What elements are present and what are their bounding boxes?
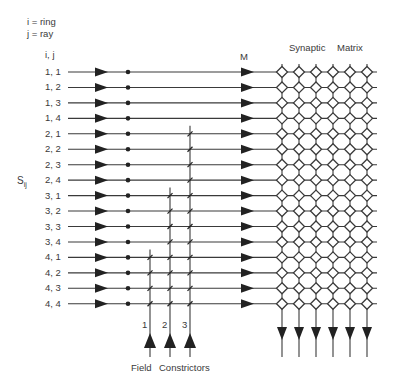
synapse-diamond-icon	[277, 298, 288, 309]
node-dot-icon	[126, 271, 131, 276]
synapse-diamond-icon	[294, 144, 305, 155]
synapse-diamond-icon	[294, 97, 305, 108]
input-arrow-icon	[95, 191, 108, 200]
synapse-diamond-icon	[294, 128, 305, 139]
m-arrow-icon	[241, 207, 254, 216]
synapse-diamond-icon	[311, 159, 322, 170]
synapse-diamond-icon	[277, 144, 288, 155]
m-arrow-icon	[241, 222, 254, 231]
synapse-diamond-icon	[345, 67, 356, 78]
synapse-diamond-icon	[362, 221, 373, 232]
synapse-diamond-icon	[362, 298, 373, 309]
m-arrow-icon	[241, 145, 254, 154]
input-arrow-icon	[95, 160, 108, 169]
constrictor-arrow-icon	[184, 333, 196, 348]
input-arrow-icon	[95, 253, 108, 262]
constrictor-arrow-icon	[144, 333, 156, 348]
synapse-diamond-icon	[328, 190, 339, 201]
input-arrow-icon	[95, 222, 108, 231]
synapse-diamond-icon	[311, 190, 322, 201]
synapse-diamond-icon	[328, 283, 339, 294]
synapse-diamond-icon	[328, 144, 339, 155]
input-arrow-icon	[95, 68, 108, 77]
synapse-diamond-icon	[362, 267, 373, 278]
synapse-diamond-icon	[328, 252, 339, 263]
synapse-diamond-icon	[294, 159, 305, 170]
input-arrow-icon	[95, 207, 108, 216]
synapse-diamond-icon	[328, 267, 339, 278]
synapse-diamond-icon	[345, 236, 356, 247]
synapse-diamond-icon	[311, 144, 322, 155]
synapse-diamond-icon	[277, 128, 288, 139]
node-dot-icon	[126, 178, 131, 183]
synapse-diamond-icon	[345, 283, 356, 294]
m-arrow-icon	[241, 98, 254, 107]
constrictor-arrow-icon	[164, 333, 176, 348]
m-arrow-icon	[241, 191, 254, 200]
synapse-diamond-icon	[294, 67, 305, 78]
synapse-diamond-icon	[294, 82, 305, 93]
synapse-diamond-icon	[311, 298, 322, 309]
m-arrow-icon	[241, 83, 254, 92]
synapse-diamond-icon	[277, 221, 288, 232]
synapse-diamond-icon	[311, 128, 322, 139]
m-arrow-icon	[241, 176, 254, 185]
m-arrow-icon	[241, 284, 254, 293]
node-dot-icon	[126, 255, 131, 260]
synapse-diamond-icon	[294, 298, 305, 309]
node-dot-icon	[126, 85, 131, 90]
node-dot-icon	[126, 301, 131, 306]
node-dot-icon	[126, 193, 131, 198]
synapse-diamond-icon	[311, 82, 322, 93]
synapse-diamond-icon	[277, 82, 288, 93]
synapse-diamond-icon	[328, 113, 339, 124]
synapse-diamond-icon	[362, 190, 373, 201]
synapse-diamond-icon	[345, 144, 356, 155]
synapse-diamond-icon	[362, 67, 373, 78]
synapse-diamond-icon	[345, 221, 356, 232]
synapse-diamond-icon	[311, 236, 322, 247]
input-arrow-icon	[95, 83, 108, 92]
synapse-diamond-icon	[277, 283, 288, 294]
synapse-diamond-icon	[328, 159, 339, 170]
synapse-diamond-icon	[362, 159, 373, 170]
synapse-diamond-icon	[345, 206, 356, 217]
m-arrow-icon	[241, 129, 254, 138]
synapse-diamond-icon	[328, 67, 339, 78]
node-dot-icon	[126, 240, 131, 245]
synapse-diamond-icon	[294, 190, 305, 201]
synapse-diamond-icon	[345, 128, 356, 139]
synapse-diamond-icon	[362, 144, 373, 155]
synapse-diamond-icon	[277, 159, 288, 170]
network-diagram	[0, 0, 396, 387]
synapse-diamond-icon	[311, 252, 322, 263]
output-arrow-icon	[311, 327, 321, 340]
synapse-diamond-icon	[277, 67, 288, 78]
synapse-diamond-icon	[294, 206, 305, 217]
synapse-diamond-icon	[362, 175, 373, 186]
synapse-diamond-icon	[294, 236, 305, 247]
input-arrow-icon	[95, 114, 108, 123]
synapse-diamond-icon	[277, 206, 288, 217]
synapse-diamond-icon	[328, 97, 339, 108]
synapse-diamond-icon	[311, 67, 322, 78]
synapse-diamond-icon	[311, 113, 322, 124]
input-arrow-icon	[95, 176, 108, 185]
node-dot-icon	[126, 70, 131, 75]
synapse-diamond-icon	[294, 283, 305, 294]
output-arrow-icon	[345, 327, 355, 340]
output-arrow-icon	[328, 327, 338, 340]
synapse-diamond-icon	[328, 128, 339, 139]
input-arrow-icon	[95, 98, 108, 107]
synapse-diamond-icon	[328, 221, 339, 232]
synapse-diamond-icon	[362, 236, 373, 247]
node-dot-icon	[126, 132, 131, 137]
input-arrow-icon	[95, 268, 108, 277]
node-dot-icon	[126, 224, 131, 229]
node-dot-icon	[126, 116, 131, 121]
synapse-diamond-icon	[311, 97, 322, 108]
synapse-diamond-icon	[345, 113, 356, 124]
synapse-diamond-icon	[294, 252, 305, 263]
synapse-diamond-icon	[362, 128, 373, 139]
synapse-diamond-icon	[362, 97, 373, 108]
